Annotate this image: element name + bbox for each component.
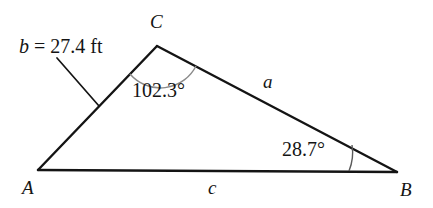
side-c-line: [38, 170, 397, 172]
vertex-label-c: C: [150, 12, 163, 31]
triangle-figure: [0, 0, 433, 208]
side-b-variable: b: [19, 35, 29, 57]
leader-line-side-b: [57, 58, 99, 106]
angle-label-c: 102.3°: [132, 80, 185, 100]
side-label-a: a: [263, 72, 273, 91]
angle-label-b: 28.7°: [282, 139, 325, 159]
vertex-label-b: B: [400, 180, 412, 199]
side-label-c: c: [208, 178, 216, 197]
vertex-label-a: A: [22, 178, 34, 197]
side-b-measure-value: = 27.4 ft: [29, 35, 103, 57]
side-a-line: [157, 46, 397, 172]
side-b-line: [38, 46, 157, 170]
side-b-measure-label: b = 27.4 ft: [19, 36, 103, 56]
